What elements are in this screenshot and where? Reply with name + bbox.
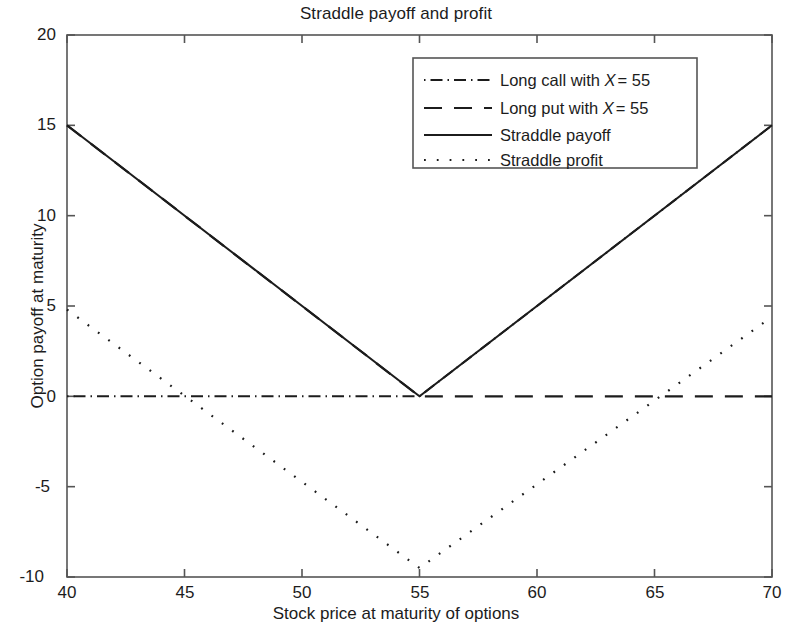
series-line-dotted: [67, 310, 772, 568]
legend[interactable]: Long call with X= 55 Long put with X= 55…: [413, 58, 697, 169]
legend-label-long-put: Long put with X= 55: [500, 99, 648, 117]
legend-label-straddle-payoff: Straddle payoff: [500, 126, 611, 144]
legend-label-long-call: Long call with X= 55: [500, 71, 650, 89]
chart-figure: Straddle payoff and profit Option payoff…: [0, 0, 792, 638]
plot-svg: Long call with X= 55 Long put with X= 55…: [0, 0, 792, 638]
legend-label-straddle-profit: Straddle profit: [500, 151, 603, 169]
data-series-layer: [67, 125, 772, 568]
